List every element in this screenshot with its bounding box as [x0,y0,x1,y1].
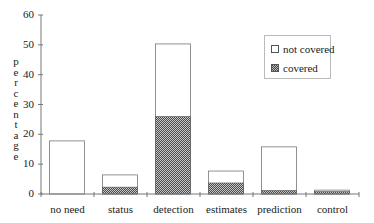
y-axis-label-letter: t [11,119,21,130]
y-axis-label-letter: p [11,56,21,67]
y-axis-label-letter: r [11,77,21,88]
legend-item-not-covered: not covered [271,43,335,55]
bar-covered [156,116,191,194]
x-tick-label: detection [147,203,200,215]
x-tick-label: estimates [200,203,253,215]
legend: not covered covered [264,35,331,79]
x-tick-label: no need [41,203,94,215]
bar-not-covered [262,147,297,194]
y-axis-label-letter: e [11,98,21,109]
x-tick-label: status [94,203,147,215]
y-tick-label: 0 [14,188,34,199]
plot-area [0,0,374,223]
y-axis-label: percentage [11,56,21,161]
bar-covered [209,183,244,194]
legend-label-covered: covered [283,62,318,74]
bar-covered [103,187,138,194]
covered-swatch-icon [271,64,279,72]
bar-not-covered [50,141,85,194]
x-tick-label: prediction [253,203,306,215]
bar-covered [262,190,297,194]
legend-item-covered: covered [271,62,318,74]
y-axis-label-letter: g [11,140,21,151]
y-axis-label-letter: e [11,151,21,162]
not-covered-swatch-icon [271,45,279,53]
x-tick-label: control [306,203,359,215]
y-tick-label: 60 [14,9,34,20]
legend-label-not-covered: not covered [283,43,335,55]
stacked-bar-chart: 0102030405060 no needstatusdetectionesti… [0,0,374,223]
y-tick-label: 50 [14,39,34,50]
